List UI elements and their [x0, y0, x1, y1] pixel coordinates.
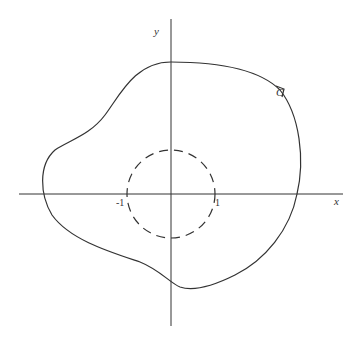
y-axis-label: y [153, 25, 159, 37]
contour-c [43, 62, 301, 289]
contour-diagram: y x C -1 1 [0, 0, 362, 341]
tick-neg-one: -1 [116, 197, 124, 208]
x-axis-label: x [333, 195, 339, 207]
contour-label: C [276, 86, 284, 98]
tick-one: 1 [215, 197, 220, 208]
